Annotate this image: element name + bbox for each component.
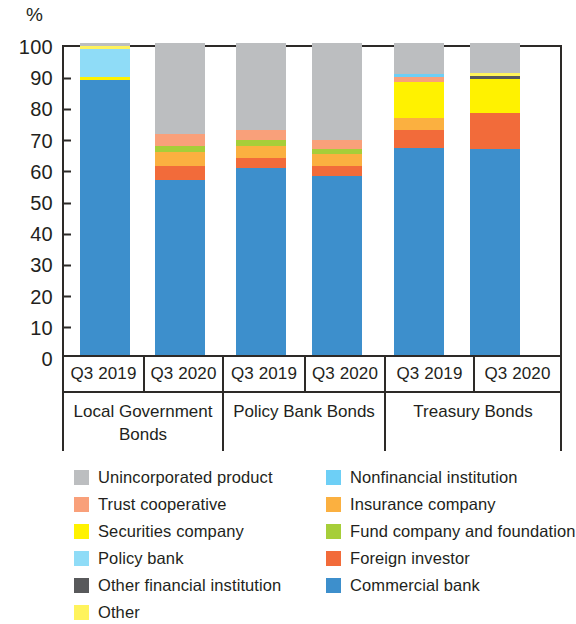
legend-swatch [74, 470, 89, 485]
bar-segment [470, 113, 520, 149]
period-row: Q3 2019Q3 2020 [224, 357, 384, 391]
bar-3 [236, 43, 286, 355]
legend-swatch [74, 551, 89, 566]
y-axis-tick-90: 90 [30, 67, 64, 90]
y-axis-tick-50: 50 [30, 192, 64, 215]
legend-label: Foreign investor [350, 549, 470, 568]
legend-label: Commercial bank [350, 576, 480, 595]
legend-item: Other [74, 599, 281, 624]
legend-label: Other financial institution [98, 576, 281, 595]
legend-swatch [326, 497, 341, 512]
legend-label: Fund company and foundation [350, 522, 576, 541]
group-label: Policy Bank Bonds [224, 391, 384, 451]
y-axis-tickmark [64, 77, 71, 79]
legend-item: Insurance company [326, 491, 576, 518]
y-axis-tickmark [64, 140, 71, 142]
y-axis-tickmark [64, 296, 71, 298]
legend-item: Nonfinancial institution [326, 464, 576, 491]
group-label: Treasury Bonds [386, 391, 560, 451]
y-axis-tick-100: 100 [19, 36, 64, 59]
x-axis-group-1: Q3 2019Q3 2020Local Government Bonds [62, 357, 224, 451]
legend-label: Nonfinancial institution [350, 468, 518, 487]
bar-segment [236, 146, 286, 158]
bar-segment [155, 180, 205, 355]
x-axis-group-3: Q3 2019Q3 2020Treasury Bonds [386, 357, 562, 451]
legend-item: Trust cooperative [74, 491, 281, 518]
y-axis-tickmark [64, 202, 71, 204]
legend-swatch [74, 605, 89, 620]
bar-segment [155, 152, 205, 166]
legend-swatch [74, 524, 89, 539]
legend-label: Insurance company [350, 495, 496, 514]
bar-segment [80, 49, 130, 77]
legend-item: Unincorporated product [74, 464, 281, 491]
bar-segment [394, 118, 444, 130]
period-label: Q3 2020 [143, 357, 222, 391]
y-axis-tick-70: 70 [30, 129, 64, 152]
group-label: Local Government Bonds [64, 391, 222, 451]
legend-column-right: Nonfinancial institutionInsurance compan… [326, 464, 576, 599]
bar-segment [312, 43, 362, 140]
legend-swatch [74, 497, 89, 512]
legend-swatch [326, 524, 341, 539]
bar-segment [236, 43, 286, 130]
period-label: Q3 2020 [473, 357, 560, 391]
bar-segment [394, 130, 444, 147]
bar-segment [312, 166, 362, 175]
y-axis-tick-80: 80 [30, 98, 64, 121]
legend-swatch [326, 551, 341, 566]
y-axis-tickmark [64, 233, 71, 235]
period-label: Q3 2019 [64, 357, 143, 391]
bar-segment [470, 149, 520, 355]
legend-item: Fund company and foundation [326, 518, 576, 545]
legend-label: Unincorporated product [98, 468, 273, 487]
bar-segment [394, 43, 444, 74]
y-axis-tick-0: 0 [42, 348, 64, 371]
bar-4 [312, 43, 362, 355]
legend-swatch [326, 470, 341, 485]
group-label-text: Local Government Bonds [64, 401, 222, 447]
bar-segment [236, 168, 286, 355]
legend-label: Policy bank [98, 549, 183, 568]
bar-2 [155, 43, 205, 355]
plot-area: 1009080706050403020100 [62, 45, 562, 357]
legend-label: Securities company [98, 522, 244, 541]
y-axis-tick-30: 30 [30, 254, 64, 277]
period-row: Q3 2019Q3 2020 [64, 357, 222, 391]
legend-item: Policy bank [74, 545, 281, 572]
bar-segment [470, 79, 520, 113]
y-axis-tick-10: 10 [30, 316, 64, 339]
legend-swatch [326, 578, 341, 593]
group-label-text: Treasury Bonds [413, 401, 532, 424]
period-label: Q3 2020 [304, 357, 384, 391]
legend-item: Securities company [74, 518, 281, 545]
y-axis-tick-20: 20 [30, 285, 64, 308]
y-axis-tickmark [64, 327, 71, 329]
bar-segment [394, 82, 444, 118]
period-row: Q3 2019Q3 2020 [386, 357, 560, 391]
x-axis-label-table: Q3 2019Q3 2020Local Government BondsQ3 2… [62, 357, 562, 451]
x-axis-group-2: Q3 2019Q3 2020Policy Bank Bonds [224, 357, 386, 451]
bar-segment [155, 43, 205, 133]
y-axis-tickmark [64, 171, 71, 173]
y-axis-tickmark [64, 264, 71, 266]
bar-segment [155, 166, 205, 180]
y-axis-tick-40: 40 [30, 223, 64, 246]
legend-item: Commercial bank [326, 572, 576, 599]
bar-6 [470, 43, 520, 355]
y-axis-tickmark [64, 108, 71, 110]
group-label-text: Policy Bank Bonds [233, 401, 375, 424]
y-axis-tick-60: 60 [30, 160, 64, 183]
legend-column-left: Unincorporated productTrust cooperativeS… [74, 464, 281, 624]
bar-1 [80, 43, 130, 355]
legend-item: Other financial institution [74, 572, 281, 599]
bar-segment [80, 80, 130, 355]
bar-segment [394, 148, 444, 355]
bar-segment [312, 140, 362, 149]
bar-segment [155, 134, 205, 146]
bar-segment [470, 43, 520, 73]
legend-item: Foreign investor [326, 545, 576, 572]
period-label: Q3 2019 [386, 357, 473, 391]
bar-segment [236, 158, 286, 167]
legend-label: Trust cooperative [98, 495, 227, 514]
